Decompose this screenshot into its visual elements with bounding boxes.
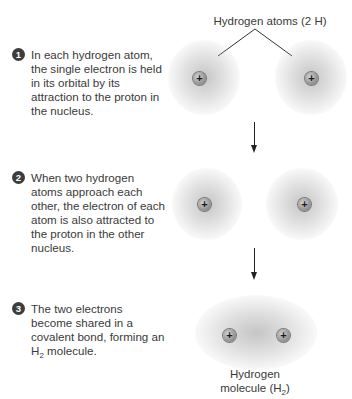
arrow-head-icon <box>251 272 257 280</box>
proton-icon: + <box>198 198 211 211</box>
proton-icon: + <box>193 72 206 85</box>
proton-icon: + <box>298 198 311 211</box>
proton-icon: + <box>277 329 290 342</box>
arrow-head-icon <box>251 145 257 153</box>
hydrogen-molecule-label: Hydrogen molecule (H2) <box>205 367 305 399</box>
proton-icon: + <box>305 72 318 85</box>
proton-icon: + <box>223 329 236 342</box>
arrow-down <box>254 248 255 273</box>
arrow-down <box>254 122 255 146</box>
shared-electron-cloud <box>195 295 317 370</box>
